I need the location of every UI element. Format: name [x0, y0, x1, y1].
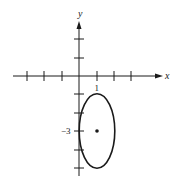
- x-axis-arrow-icon: [155, 74, 163, 79]
- ellipse-center-point: [95, 129, 99, 133]
- coordinate-plane: y x 1 −3: [0, 0, 177, 182]
- x-tick-label-1: 1: [95, 83, 100, 93]
- y-axis-arrow-icon: [77, 21, 82, 29]
- y-axis-label: y: [77, 8, 83, 19]
- y-tick-label-neg3: −3: [61, 126, 71, 136]
- ellipse-diagram: y x 1 −3: [0, 0, 177, 182]
- x-axis-label: x: [164, 70, 170, 81]
